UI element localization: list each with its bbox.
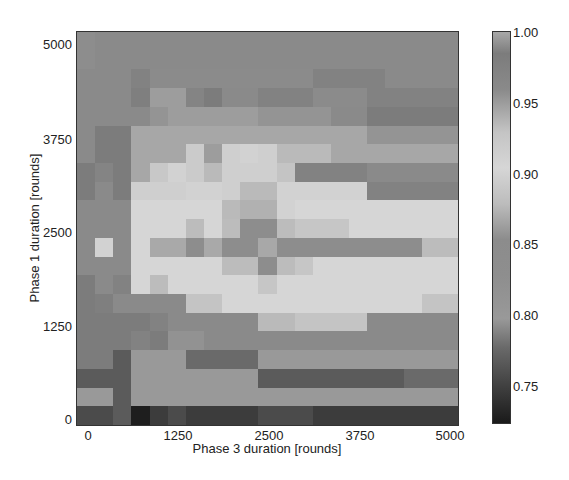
- heatmap-cell: [258, 313, 276, 332]
- heatmap-cell: [222, 126, 240, 145]
- heatmap-cell: [204, 294, 222, 313]
- heatmap-cell: [113, 163, 131, 182]
- heatmap-cell: [222, 294, 240, 313]
- heatmap-cell: [240, 107, 258, 126]
- heatmap-cell: [131, 350, 149, 369]
- heatmap-cell: [422, 275, 440, 294]
- colorbar-tick-label: 0.80: [513, 308, 538, 323]
- heatmap-cell: [150, 126, 168, 145]
- heatmap-cell: [331, 294, 349, 313]
- heatmap-cell: [186, 69, 204, 88]
- heatmap-cell: [404, 144, 422, 163]
- heatmap-cell: [295, 350, 313, 369]
- heatmap-cell: [422, 350, 440, 369]
- heatmap-cell: [331, 275, 349, 294]
- heatmap-cell: [186, 331, 204, 350]
- heatmap-cell: [131, 238, 149, 257]
- heatmap-cell: [440, 182, 458, 201]
- heatmap-cell: [95, 388, 113, 407]
- heatmap-cell: [349, 406, 367, 425]
- heatmap-cell: [422, 69, 440, 88]
- heatmap-cell: [367, 388, 385, 407]
- heatmap-cell: [77, 294, 95, 313]
- heatmap-cell: [367, 294, 385, 313]
- heatmap-cell: [113, 313, 131, 332]
- colorbar: [492, 31, 511, 424]
- heatmap-cell: [404, 275, 422, 294]
- heatmap-cell: [258, 88, 276, 107]
- heatmap-cell: [258, 182, 276, 201]
- heatmap-cell: [168, 238, 186, 257]
- heatmap-cell: [422, 126, 440, 145]
- heatmap-cell: [168, 294, 186, 313]
- heatmap-cell: [113, 369, 131, 388]
- heatmap-cell: [349, 107, 367, 126]
- heatmap-cell: [367, 350, 385, 369]
- heatmap-cell: [186, 369, 204, 388]
- heatmap-cell: [331, 219, 349, 238]
- heatmap-cell: [277, 219, 295, 238]
- heatmap-cell: [77, 369, 95, 388]
- heatmap-cell: [422, 331, 440, 350]
- heatmap-cell: [349, 238, 367, 257]
- heatmap-cell: [422, 182, 440, 201]
- heatmap-cell: [277, 107, 295, 126]
- heatmap-cell: [222, 313, 240, 332]
- heatmap-cell: [277, 388, 295, 407]
- heatmap-cell: [95, 238, 113, 257]
- heatmap-cell: [385, 144, 403, 163]
- heatmap-cell: [404, 107, 422, 126]
- heatmap-cell: [131, 107, 149, 126]
- heatmap-cell: [113, 275, 131, 294]
- heatmap-cell: [168, 200, 186, 219]
- heatmap-cell: [95, 69, 113, 88]
- heatmap-cell: [150, 32, 168, 51]
- heatmap-cell: [367, 313, 385, 332]
- heatmap-cell: [331, 69, 349, 88]
- heatmap-cell: [113, 107, 131, 126]
- heatmap-cell: [440, 200, 458, 219]
- heatmap-cell: [131, 313, 149, 332]
- heatmap-cell: [222, 275, 240, 294]
- heatmap-cell: [313, 182, 331, 201]
- heatmap-cell: [150, 294, 168, 313]
- heatmap-cell: [222, 257, 240, 276]
- heatmap-cell: [131, 32, 149, 51]
- heatmap-cell: [349, 32, 367, 51]
- heatmap-cell: [404, 182, 422, 201]
- heatmap-cell: [295, 257, 313, 276]
- heatmap-cell: [222, 369, 240, 388]
- heatmap-cell: [131, 182, 149, 201]
- heatmap-cell: [240, 313, 258, 332]
- y-tick-label: 3750: [43, 132, 72, 147]
- heatmap-cell: [404, 369, 422, 388]
- heatmap-cell: [113, 88, 131, 107]
- heatmap-cell: [349, 313, 367, 332]
- heatmap-cell: [422, 144, 440, 163]
- heatmap-cell: [204, 200, 222, 219]
- heatmap-cell: [349, 126, 367, 145]
- heatmap-cell: [331, 350, 349, 369]
- heatmap-cell: [385, 51, 403, 70]
- heatmap-cell: [385, 107, 403, 126]
- heatmap-cell: [440, 388, 458, 407]
- heatmap-cell: [95, 331, 113, 350]
- heatmap-cell: [422, 238, 440, 257]
- heatmap-cell: [168, 350, 186, 369]
- heatmap-cell: [385, 331, 403, 350]
- heatmap-cell: [150, 275, 168, 294]
- heatmap-cell: [258, 200, 276, 219]
- heatmap-cell: [313, 88, 331, 107]
- heatmap-cell: [240, 182, 258, 201]
- heatmap-cell: [258, 350, 276, 369]
- heatmap-cell: [385, 182, 403, 201]
- heatmap-cell: [204, 313, 222, 332]
- heatmap-cell: [385, 219, 403, 238]
- heatmap-cell: [77, 238, 95, 257]
- heatmap-cell: [385, 257, 403, 276]
- heatmap-cell: [295, 88, 313, 107]
- heatmap-cell: [204, 350, 222, 369]
- heatmap-cell: [258, 388, 276, 407]
- heatmap-cell: [95, 32, 113, 51]
- heatmap-cell: [204, 107, 222, 126]
